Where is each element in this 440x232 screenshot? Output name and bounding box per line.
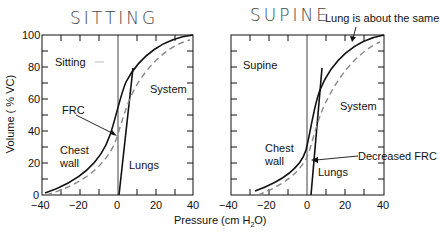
left-system-label: System (150, 83, 187, 95)
frc-label: FRC (62, 104, 85, 116)
left-x-tick-20: 20 (150, 199, 162, 211)
left-lungs-curve (119, 68, 133, 195)
right-x-tick-neg20: −20 (257, 199, 276, 211)
y-tick-60: 60 (28, 93, 40, 105)
supine-label: Supine (243, 59, 277, 71)
right-x-tick-neg40: −40 (219, 199, 238, 211)
left-chest-label-1: Chest (60, 144, 89, 156)
right-x-tick-20: 20 (339, 199, 351, 211)
right-x-tick-40: 40 (377, 199, 389, 211)
y-tick-40: 40 (28, 125, 40, 137)
decreased-frc-label: Decreased FRC (358, 150, 437, 162)
left-x-tick-neg20: −20 (69, 199, 88, 211)
y-tick-20: 20 (28, 157, 40, 169)
right-x-tick-0: 0 (304, 199, 310, 211)
left-x-tick-40: 40 (187, 199, 199, 211)
right-chest-label-1: Chest (265, 142, 294, 154)
y-axis-label: Volume ( % VC) (4, 73, 16, 155)
left-x-tick-0: 0 (114, 199, 120, 211)
lung-same-note: Lung is about the same (325, 12, 439, 24)
right-system-label: System (340, 100, 377, 112)
right-chest-label-2: wall (265, 155, 284, 167)
x-axis-label: Pressure (cm H2O) (174, 214, 267, 228)
y-tick-100: 100 (22, 29, 40, 41)
left-chest-label-2: wall (60, 157, 79, 169)
left-lungs-label: Lungs (129, 159, 159, 171)
chart-canvas (0, 0, 440, 232)
y-tick-80: 80 (28, 61, 40, 73)
left-x-tick-neg40: −40 (31, 199, 50, 211)
right-lungs-label: Lungs (318, 166, 348, 178)
sitting-label: Sitting (55, 56, 86, 68)
